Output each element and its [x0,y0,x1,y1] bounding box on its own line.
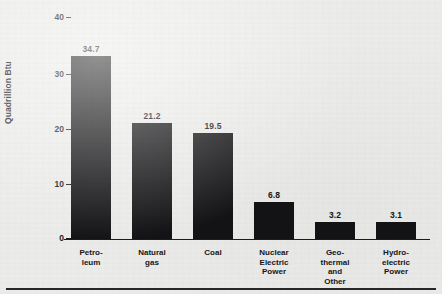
bar-group-hydroelectric-power: 3.1 [365,44,427,239]
y-axis-tick-0: 0 [16,233,64,244]
bar-group-natural-gas: 21.2 [121,44,183,239]
bar-group-geothermal-and-other: 3.2 [304,44,366,239]
bar-value-label: 21.2 [144,111,161,121]
bar-column: 3.2 [304,44,366,239]
bar-group-coal: 19.5 [182,44,244,239]
y-axis-tick-40: 40 [16,12,64,23]
y-axis-tick-20: 20 [16,124,64,135]
bar-value-label: 3.1 [390,210,402,220]
x-axis-label-nuclear-electric-power: Nuclear Electric Power [243,248,305,277]
bar-chart-figure: Quadrillion Btu 40 30 20 10 0 34.7 Petro… [0,0,442,294]
y-axis-title: Quadrillion Btu [3,44,17,124]
y-axis-tick-30: 30 [16,69,64,80]
bar-value-label: 6.8 [268,190,280,200]
x-axis-label-petroleum: Petro- leum [60,248,122,267]
bar-group-petroleum: 34.7 [60,44,122,239]
bar-rect [315,222,355,239]
bar-group-nuclear-electric-power: 6.8 [243,44,305,239]
bar-rect [376,222,416,239]
x-axis-baseline [64,239,430,240]
bar-rect [193,133,233,239]
x-axis-label-natural-gas: Natural gas [121,248,183,267]
bar-value-label: 34.7 [83,44,100,54]
bar-rect [71,56,111,239]
x-axis-label-geothermal-and-other: Geo- thermal and Other [304,248,366,286]
bar-value-label: 3.2 [329,210,341,220]
x-axis-label-coal: Coal [182,248,244,258]
bar-column: 6.8 [243,44,305,239]
bar-column: 21.2 [121,44,183,239]
bar-rect [132,123,172,239]
bar-column: 3.1 [365,44,427,239]
bar-column: 34.7 [60,44,122,239]
bottom-divider-rule [6,288,436,290]
y-axis-tick-10: 10 [16,179,64,190]
bar-value-label: 19.5 [205,121,222,131]
bar-rect [254,202,294,239]
bar-column: 19.5 [182,44,244,239]
x-axis-label-hydroelectric-power: Hydro- electric Power [365,248,427,277]
